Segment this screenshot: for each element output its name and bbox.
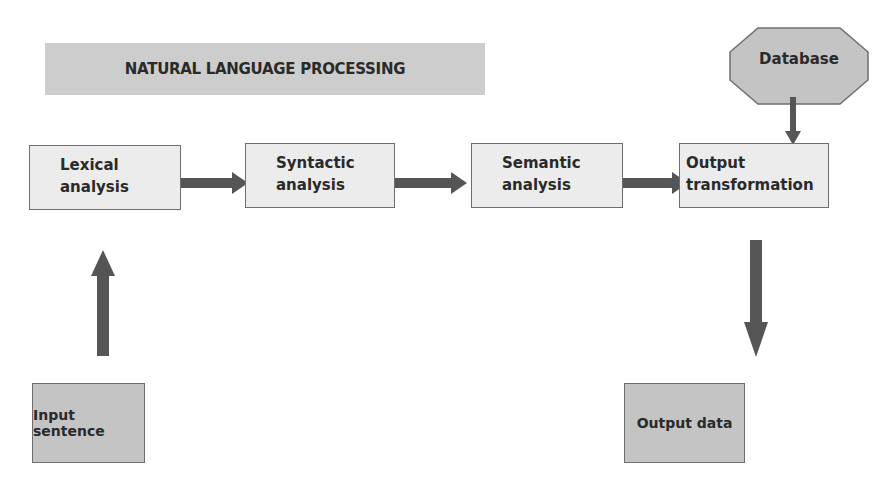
output-data-label: Output data: [637, 415, 733, 431]
arrow-lexical-to-syntactic: [180, 172, 248, 194]
semantic-label-line1: Semantic: [502, 152, 622, 174]
database-label: Database: [759, 50, 839, 68]
semantic-label-line2: analysis: [502, 174, 622, 196]
arrow-output-transformation-to-output-data: [744, 240, 768, 357]
arrow-input-to-lexical: [91, 250, 115, 356]
output-data-box: Output data: [624, 383, 745, 463]
diagram-title: NATURAL LANGUAGE PROCESSING: [45, 43, 485, 95]
semantic-analysis-box: Semantic analysis: [471, 143, 623, 208]
output-transformation-label-line2: transformation: [686, 174, 828, 196]
lexical-analysis-box: Lexical analysis: [29, 145, 181, 210]
input-sentence-label: Input sentence: [33, 407, 144, 439]
input-sentence-box: Input sentence: [32, 383, 145, 463]
database-node: Database: [730, 28, 868, 104]
output-transformation-label-line1: Output: [686, 152, 828, 174]
arrow-semantic-to-output-transformation: [619, 172, 688, 194]
lexical-label-line2: analysis: [60, 176, 180, 198]
output-transformation-box: Output transformation: [679, 143, 829, 208]
syntactic-analysis-box: Syntactic analysis: [245, 143, 395, 208]
lexical-label-line1: Lexical: [60, 154, 180, 176]
syntactic-label-line2: analysis: [276, 174, 394, 196]
syntactic-label-line1: Syntactic: [276, 152, 394, 174]
arrow-syntactic-to-semantic: [395, 172, 467, 194]
